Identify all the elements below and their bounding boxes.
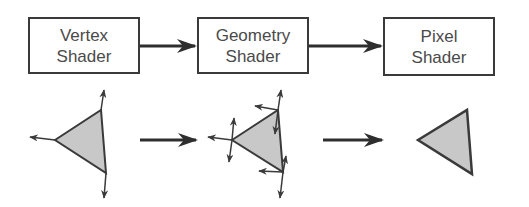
geometry-vector-arrow (208, 137, 232, 140)
vertex-normal-arrow (30, 137, 55, 140)
geometry-vector-arrow (278, 90, 281, 110)
geometry-triangle (232, 110, 283, 172)
pipeline-diagram (0, 0, 529, 207)
geometry-vector-arrow (229, 140, 232, 162)
vertex-normal-arrow (101, 90, 104, 110)
geometry-vector-arrow (255, 106, 278, 110)
geometry-vector-arrow (259, 171, 283, 172)
geometry-vector-arrow (280, 172, 283, 198)
geometry-vector-arrow (232, 118, 234, 140)
geometry-vector-arrow (283, 156, 286, 172)
vertex-stage-triangle-group (30, 90, 106, 198)
vertex-normal-arrow (104, 173, 106, 198)
pixel-triangle (418, 110, 472, 174)
vertex-triangle (55, 110, 106, 173)
geometry-stage-triangle-group (208, 90, 286, 198)
